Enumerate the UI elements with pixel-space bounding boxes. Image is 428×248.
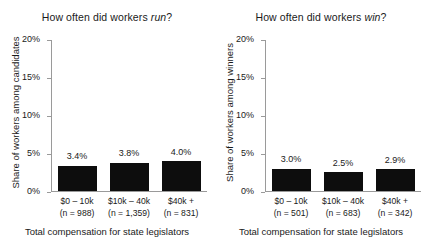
bar-series: 3.0% 2.5% 2.9%: [265, 40, 421, 191]
y-tick-label-10: 10%: [236, 110, 254, 120]
y-tick-label-5: 5%: [27, 148, 40, 158]
chart-panel-win: How often did workers win? Share of work…: [214, 0, 428, 248]
bar-rect: [162, 161, 201, 191]
bar-value-label: 3.4%: [51, 151, 103, 161]
bar-value-label: 4.0%: [155, 147, 207, 157]
y-axis-label: Share of workers among winners: [224, 37, 235, 189]
bar-group: 3.0%: [265, 40, 317, 191]
panel-title-emphasis: run: [151, 11, 166, 23]
x-category-item: $40k + (n = 342): [369, 195, 421, 219]
y-tick-label-20: 20%: [236, 34, 254, 44]
bar-rect: [272, 169, 311, 192]
panel-title: How often did workers run?: [0, 11, 214, 23]
bar-series: 3.4% 3.8% 4.0%: [51, 40, 207, 191]
x-category-item: $10k – 40k (n = 683): [317, 195, 369, 219]
bar-value-label: 2.5%: [317, 158, 369, 168]
bar-value-label: 2.9%: [369, 155, 421, 165]
bar-group: 2.5%: [317, 40, 369, 191]
x-category-item: $0 – 10k (n = 988): [51, 195, 103, 219]
panel-title-suffix: ?: [381, 11, 387, 23]
y-tick-label-5: 5%: [241, 148, 254, 158]
bar-rect: [324, 172, 363, 191]
x-category-count: (n = 988): [51, 207, 103, 219]
bar-rect: [110, 163, 149, 192]
x-category-labels: $0 – 10k (n = 501) $10k – 40k (n = 683) …: [265, 195, 421, 219]
plot-area: 20% 15% 10% 5% 0% 3.0% 2.5%: [265, 40, 421, 192]
chart-panel-run: How often did workers run? Share of work…: [0, 0, 214, 248]
panel-title-emphasis: win: [364, 11, 380, 23]
panel-title-suffix: ?: [166, 11, 172, 23]
y-tick-label-10: 10%: [22, 110, 40, 120]
bar-group: 4.0%: [155, 40, 207, 191]
x-axis-line: [51, 191, 207, 192]
figure: How often did workers run? Share of work…: [0, 0, 428, 248]
x-category-count: (n = 831): [155, 207, 207, 219]
x-category-count: (n = 501): [265, 207, 317, 219]
y-tick-label-15: 15%: [22, 72, 40, 82]
x-category-count: (n = 683): [317, 207, 369, 219]
x-category-count: (n = 1,359): [103, 207, 155, 219]
y-tick-0: 0%: [261, 192, 265, 193]
y-tick-label-15: 15%: [236, 72, 254, 82]
panel-title-prefix: How often did workers: [42, 11, 151, 23]
bar-value-label: 3.0%: [265, 154, 317, 164]
bar-group: 3.8%: [103, 40, 155, 191]
x-category-name: $0 – 10k: [61, 196, 94, 206]
x-axis-label: Total compensation for state legislators: [0, 226, 214, 237]
y-tick-0: 0%: [47, 192, 51, 193]
y-tick-label-0: 0%: [241, 186, 254, 196]
x-category-name: $40k +: [168, 196, 194, 206]
panel-title: How often did workers win?: [214, 11, 428, 23]
bar-group: 3.4%: [51, 40, 103, 191]
y-tick-label-20: 20%: [22, 34, 40, 44]
x-axis-label: Total compensation for state legislators: [214, 226, 428, 237]
bar-rect: [58, 166, 97, 192]
x-category-name: $0 – 10k: [275, 196, 308, 206]
x-category-item: $40k + (n = 831): [155, 195, 207, 219]
y-axis-label: Share of workers among candidates: [10, 37, 21, 189]
x-category-name: $10k – 40k: [108, 196, 150, 206]
x-category-name: $10k – 40k: [322, 196, 364, 206]
bar-value-label: 3.8%: [103, 148, 155, 158]
panel-title-prefix: How often did workers: [255, 11, 364, 23]
bar-group: 2.9%: [369, 40, 421, 191]
x-category-name: $40k +: [382, 196, 408, 206]
x-category-item: $0 – 10k (n = 501): [265, 195, 317, 219]
y-tick-label-0: 0%: [27, 186, 40, 196]
x-category-item: $10k – 40k (n = 1,359): [103, 195, 155, 219]
x-axis-line: [265, 191, 421, 192]
x-category-count: (n = 342): [369, 207, 421, 219]
plot-area: 20% 15% 10% 5% 0% 3.4% 3.8%: [51, 40, 207, 192]
bar-rect: [376, 169, 415, 191]
x-category-labels: $0 – 10k (n = 988) $10k – 40k (n = 1,359…: [51, 195, 207, 219]
